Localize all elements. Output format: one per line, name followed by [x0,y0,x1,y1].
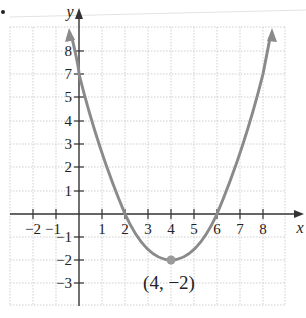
x-tick-label: 5 [190,221,198,237]
x-tick-label: 8 [259,221,267,237]
y-tick-label: 5 [65,89,73,105]
x-tick-label: 1 [98,221,106,237]
grid [10,27,285,305]
parabola-chart: −2 −1 1 2 3 4 5 6 7 8 x [0,0,306,318]
y-tick-label: 2 [65,159,73,175]
y-tick-label: 4 [65,113,73,129]
y-axis-label: y [64,3,74,21]
y-tick-label: 7 [65,66,73,82]
x-tick-label: 6 [213,221,221,237]
vertex-point [167,256,176,265]
left-arrow-icon [65,28,75,42]
x-tick-label: 4 [167,221,175,237]
x-axis: −2 −1 1 2 3 4 5 6 7 8 x [10,209,304,237]
right-arrow-icon [267,28,277,42]
y-tick-label: 3 [65,136,73,152]
y-tick-label: −3 [56,275,72,291]
y-tick-label: 8 [65,43,73,59]
x-axis-label: x [295,219,303,236]
x-tick-label: 2 [121,221,129,237]
y-axis: 8 7 5 4 3 2 1 −1 −2 −3 y [56,3,84,306]
vertex-label: (4, −2) [143,272,195,294]
top-rule [10,10,306,17]
x-tick-label: 7 [236,221,244,237]
corner-dot [1,10,5,14]
y-tick-label: −1 [56,229,72,245]
x-tick-label: −2 [25,221,41,237]
x-tick-label: 3 [144,221,152,237]
y-tick-label: 1 [65,183,73,199]
y-tick-label: −2 [56,252,72,268]
